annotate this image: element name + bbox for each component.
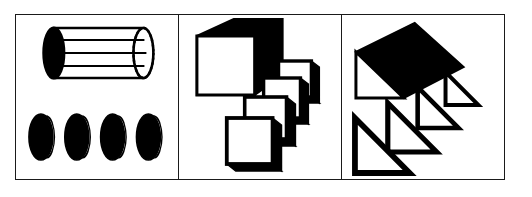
cylinder-shape-layer: [16, 15, 178, 179]
panel-cylinder: Cylinder decomposed into circular discs: [15, 14, 179, 180]
cube-svg: [179, 15, 341, 179]
cube-front-face: [197, 36, 255, 95]
disc-slice: [101, 114, 127, 160]
disc-slice: [29, 114, 55, 160]
cylinder-solid: [43, 28, 153, 79]
wedge-svg: [342, 15, 504, 179]
panel-cube: Rectangular prism decomposed into square…: [178, 14, 342, 180]
cylinder-near-cap: [43, 28, 64, 79]
cylinder-slice-group: [29, 114, 162, 160]
disc-slice: [136, 114, 162, 160]
triangle-slice: [445, 72, 478, 105]
square-slice: [227, 118, 282, 171]
wedge-shape-layer: [342, 15, 504, 179]
panel-strip: Cylinder decomposed into circular discs: [15, 14, 505, 180]
panel-wedge: Triangular prism decomposed into triangu…: [341, 14, 505, 180]
disc-slice: [65, 114, 91, 160]
cube-shape-layer: [179, 15, 341, 179]
figure-root: Cylinder decomposed into circular discs: [0, 0, 532, 197]
cylinder-svg: [16, 15, 178, 179]
